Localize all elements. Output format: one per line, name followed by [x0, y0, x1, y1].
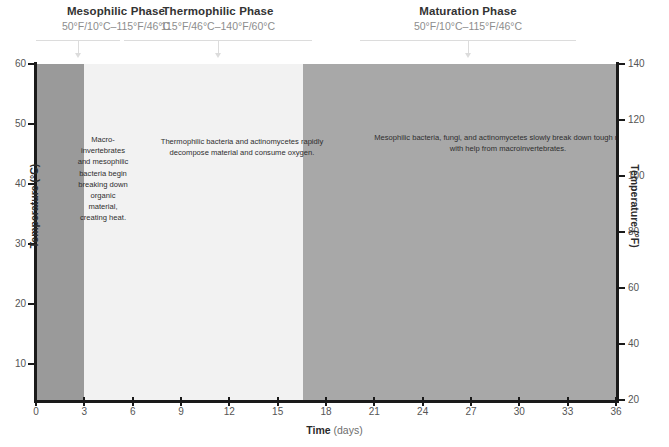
x-tick-label: 24 — [411, 406, 435, 417]
y-axis-title-right: Temperature (°F) — [629, 146, 641, 266]
annotation-maturation: Mesophilic bacteria, fungi, and actinomy… — [372, 132, 616, 154]
y-tick-label-right: 40 — [628, 338, 664, 349]
plot-area: Macro-invertebrates and mesophilic bacte… — [36, 64, 616, 400]
phase-band-mesophilic — [36, 64, 84, 400]
annotation-mesophilic: Macro-invertebrates and mesophilic bacte… — [76, 134, 130, 224]
y-tick-label-right: 60 — [628, 282, 664, 293]
y-axis-title-left: Temperature (°C) — [28, 146, 40, 266]
x-tick-label: 36 — [604, 406, 628, 417]
phase-range: 115°F/46°C–140°F/60°C — [120, 19, 316, 33]
x-tick-label: 18 — [314, 406, 338, 417]
y-tick-label-left: 30 — [0, 238, 26, 249]
x-tick-label: 27 — [459, 406, 483, 417]
phase-band-thermophilic — [84, 64, 303, 400]
phase-bracket — [36, 40, 120, 60]
x-tick-label: 12 — [217, 406, 241, 417]
phase-header-thermophilic: Thermophilic Phase 115°F/46°C–140°F/60°C — [120, 4, 316, 33]
x-tick-label: 9 — [169, 406, 193, 417]
phase-range: 50°F/10°C–115°F/46°C — [336, 19, 600, 33]
y-tick-label-left: 10 — [0, 358, 26, 369]
x-tick-label: 3 — [72, 406, 96, 417]
y-tick-label-right: 120 — [628, 114, 664, 125]
y-tick-label-right: 140 — [628, 58, 664, 69]
phase-bracket — [360, 40, 576, 60]
x-axis-title: Time (days) — [0, 424, 669, 436]
x-tick-label: 6 — [121, 406, 145, 417]
phase-bracket — [124, 40, 312, 60]
x-axis-title-unit: (days) — [334, 424, 363, 436]
y-tick-label-left: 20 — [0, 298, 26, 309]
x-tick-label: 15 — [266, 406, 290, 417]
x-axis-title-text: Time — [306, 424, 330, 436]
y-tick-label-left: 40 — [0, 178, 26, 189]
phase-band-maturation — [303, 64, 616, 400]
phase-header-maturation: Maturation Phase 50°F/10°C–115°F/46°C — [336, 4, 600, 33]
phase-title: Maturation Phase — [336, 4, 600, 18]
y-tick-label-right: 20 — [628, 394, 664, 405]
y-tick-label-left: 60 — [0, 58, 26, 69]
y-tick-label-left: 50 — [0, 118, 26, 129]
x-tick-label: 21 — [362, 406, 386, 417]
x-tick-label: 0 — [24, 406, 48, 417]
annotation-thermophilic: Thermophilic bacteria and actinomycetes … — [152, 136, 332, 158]
compost-temperature-chart: Mesophilic Phase 50°F/10°C–115°F/46°C Th… — [0, 0, 669, 447]
x-tick-label: 33 — [556, 406, 580, 417]
x-tick-label: 30 — [507, 406, 531, 417]
phase-title: Thermophilic Phase — [120, 4, 316, 18]
